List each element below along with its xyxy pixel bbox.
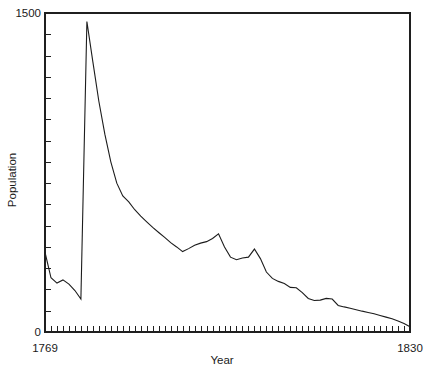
population-line-chart: 1500 0 1769 1830 Year Population bbox=[0, 0, 427, 372]
y-axis-max-label: 1500 bbox=[15, 7, 41, 19]
x-axis-max-label: 1830 bbox=[397, 342, 423, 354]
x-axis-ticks bbox=[46, 326, 411, 332]
y-axis-min-label: 0 bbox=[35, 326, 41, 338]
x-axis-title: Year bbox=[210, 354, 233, 366]
plot-frame bbox=[45, 13, 410, 332]
y-axis-title: Population bbox=[6, 153, 18, 207]
population-series-line bbox=[45, 22, 410, 327]
chart-canvas: 1500 0 1769 1830 Year Population bbox=[0, 0, 427, 372]
y-axis-ticks bbox=[45, 14, 51, 333]
x-axis-min-label: 1769 bbox=[32, 342, 58, 354]
